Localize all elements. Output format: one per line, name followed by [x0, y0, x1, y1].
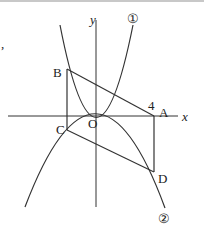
- point-B-label: B: [53, 65, 62, 80]
- y-axis-label: y: [88, 12, 96, 27]
- point-A-label: A: [159, 105, 169, 120]
- tick-label-4: 4: [148, 98, 155, 113]
- segment-CD: [67, 130, 154, 172]
- segment-BA: [67, 69, 154, 116]
- curve-1-label: ①: [127, 11, 139, 26]
- x-axis-label: x: [181, 109, 188, 124]
- point-D-label: D: [158, 171, 167, 186]
- coordinate-diagram: y x O ① ② B C A 4 D ,: [0, 0, 204, 227]
- origin-label: O: [88, 116, 97, 131]
- curve-2-label: ②: [158, 211, 170, 226]
- stray-comma: ,: [1, 36, 4, 51]
- point-C-label: C: [56, 122, 65, 137]
